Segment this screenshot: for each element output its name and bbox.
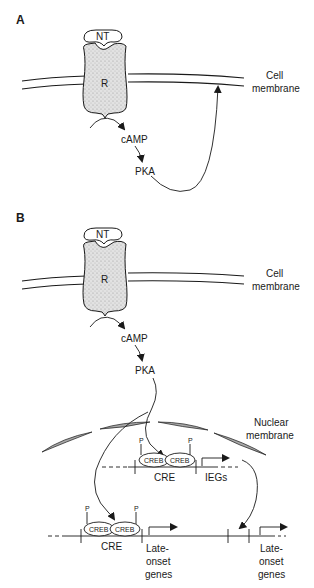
membrane-label-b-line2: membrane (252, 281, 300, 292)
membrane-label-a-line1: Cell (266, 70, 283, 81)
nuclear-membrane-label-line2: membrane (246, 430, 294, 441)
arrow-r-to-camp-b (90, 317, 124, 328)
creb-lower-2-label: CREB (115, 526, 135, 533)
transcription-arrow-late-1 (149, 527, 176, 535)
arrow-camp-to-pka-b (135, 345, 142, 360)
cell-membrane-a (22, 74, 244, 89)
arrow-pka-to-upper-creb (145, 378, 163, 456)
phospho-lower-1: P (85, 505, 90, 512)
late-genes-1-line1: Late- (146, 543, 169, 554)
creb-upper-1-label: CREB (144, 457, 164, 464)
upper-gene: P P CREB CREB CRE IEGs (102, 437, 238, 483)
receptor-label-a: R (101, 78, 108, 89)
phospho-upper-2: P (188, 437, 193, 444)
pka-label-b: PKA (135, 365, 155, 376)
transcription-arrow-igs (202, 458, 228, 466)
late-genes-2-line3: genes (258, 569, 285, 580)
late-genes-1-line2: onset (146, 556, 171, 567)
membrane-label-a-line2: membrane (252, 83, 300, 94)
cre-upper-label: CRE (154, 472, 175, 483)
late-genes-2-line2: onset (259, 556, 284, 567)
camp-label-b: cAMP (121, 333, 148, 344)
pka-label-a: PKA (135, 166, 155, 177)
phospho-lower-2: P (134, 505, 139, 512)
panel-label-a: A (16, 13, 25, 27)
arrow-camp-to-pka-a (135, 146, 142, 161)
creb-upper-2-label: CREB (170, 457, 190, 464)
arrow-r-to-camp-a (90, 118, 124, 129)
ligand-label-a: NT (96, 31, 109, 42)
panel-label-b: B (16, 211, 25, 225)
panel-b: B R NT cAMP PKA Cell membrane Nuclear me… (16, 211, 300, 580)
panel-a: A R NT cAMP PKA Cell membrane (16, 13, 300, 191)
ligand-label-b: NT (96, 229, 109, 240)
nuclear-membrane-label-line1: Nuclear (254, 417, 289, 428)
creb-lower-1-label: CREB (89, 526, 109, 533)
phospho-upper-1: P (139, 437, 144, 444)
late-genes-1-line3: genes (145, 569, 172, 580)
nuclear-membrane (42, 422, 266, 455)
camp-label-a: cAMP (121, 134, 148, 145)
membrane-label-b-line1: Cell (266, 268, 283, 279)
arrow-iegs-to-late-genes (240, 460, 257, 528)
transcription-arrow-late-2 (260, 527, 286, 535)
arrow-pka-to-membrane-a (151, 87, 218, 191)
cre-lower-label: CRE (101, 541, 122, 552)
late-genes-2-line1: Late- (260, 543, 283, 554)
diagram: A R NT cAMP PKA Cell membrane B (0, 0, 314, 588)
iegs-label: IEGs (205, 472, 227, 483)
cell-membrane-b (22, 273, 244, 289)
receptor-label-b: R (101, 274, 108, 285)
